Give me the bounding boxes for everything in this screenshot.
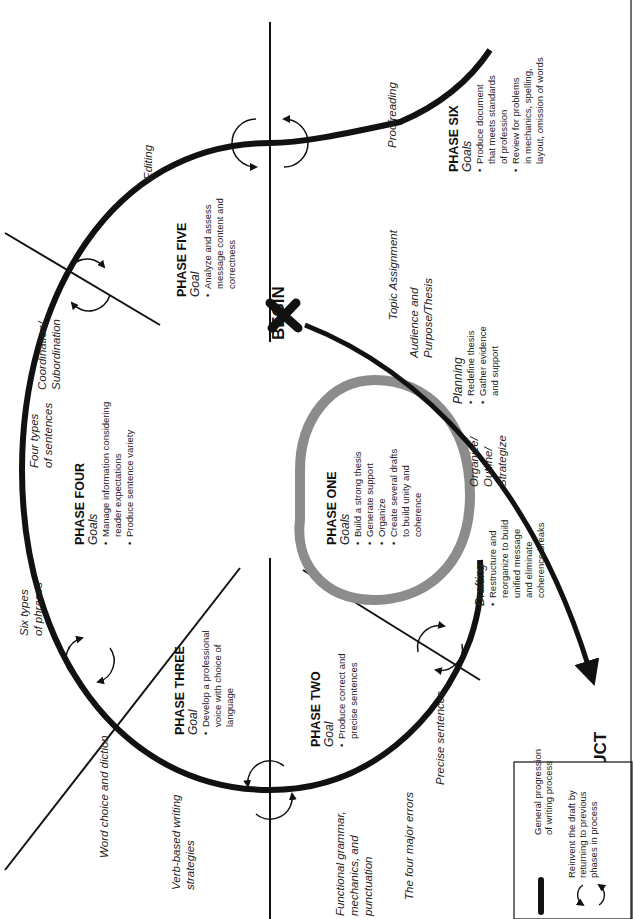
topic-assignment-label: Topic Assignment bbox=[387, 229, 399, 320]
svg-text:•: • bbox=[487, 603, 498, 606]
svg-text:and support: and support bbox=[489, 345, 500, 396]
proofreading-label: Proofreading bbox=[386, 82, 398, 148]
svg-text:PHASE FOUR: PHASE FOUR bbox=[73, 463, 87, 545]
svg-text:Redefine thesis: Redefine thesis bbox=[465, 330, 476, 396]
svg-text:reader expectations: reader expectations bbox=[112, 453, 123, 537]
svg-text:Gather evidence: Gather evidence bbox=[477, 326, 488, 396]
progression-arrow bbox=[305, 325, 588, 665]
svg-text:Produce document: Produce document bbox=[474, 84, 485, 164]
svg-text:message content and: message content and bbox=[214, 198, 225, 289]
phase-one-goal: Goals bbox=[338, 514, 352, 545]
svg-text:Organize: Organize bbox=[376, 498, 387, 537]
process-loop bbox=[22, 122, 470, 790]
svg-text:in mechanics, spelling,: in mechanics, spelling, bbox=[522, 68, 533, 164]
svg-text:Coordination/: Coordination/ bbox=[36, 320, 48, 390]
svg-text:Functional grammar,: Functional grammar, bbox=[334, 811, 346, 916]
svg-text:Goal: Goal bbox=[322, 721, 336, 747]
svg-text:coherence: coherence bbox=[412, 493, 423, 537]
svg-text:Six types: Six types bbox=[18, 589, 30, 636]
svg-text:Develop a professional: Develop a professional bbox=[200, 630, 211, 727]
svg-text:correctness: correctness bbox=[226, 240, 237, 289]
svg-text:•: • bbox=[465, 401, 476, 404]
four-types-label: Four types of sentences bbox=[28, 403, 54, 468]
svg-text:Planning: Planning bbox=[451, 357, 465, 404]
phase-six: PHASE SIX Goals •Produce document that m… bbox=[447, 57, 545, 172]
svg-text:of profession: of profession bbox=[498, 110, 509, 164]
svg-text:PHASE THREE: PHASE THREE bbox=[173, 646, 187, 735]
six-types-label: Six types of phrases bbox=[18, 582, 44, 636]
svg-text:Strategize: Strategize bbox=[496, 435, 508, 487]
svg-text:punctuation: punctuation bbox=[362, 857, 374, 917]
svg-text:of phrases: of phrases bbox=[32, 582, 44, 636]
four-major-errors-label: The four major errors bbox=[403, 792, 415, 900]
svg-text:Drafting: Drafting bbox=[473, 564, 487, 606]
svg-text:of sentences: of sentences bbox=[42, 403, 54, 468]
svg-text:Generate support: Generate support bbox=[364, 463, 375, 537]
svg-text:voice with choice of: voice with choice of bbox=[212, 644, 223, 727]
svg-text:•: • bbox=[352, 542, 363, 545]
svg-text:Create several drafts: Create several drafts bbox=[388, 449, 399, 537]
svg-text:•: • bbox=[474, 169, 485, 172]
svg-text:•: • bbox=[336, 744, 347, 747]
svg-text:Four types: Four types bbox=[28, 413, 40, 468]
svg-text:•: • bbox=[510, 169, 521, 172]
phase-one-title: PHASE ONE bbox=[325, 471, 339, 545]
svg-text:Subordination: Subordination bbox=[50, 319, 62, 390]
verb-based-label: Verb-based writing strategies bbox=[170, 794, 196, 890]
svg-text:mechanics, and: mechanics, and bbox=[348, 835, 360, 916]
functional-grammar-label: Functional grammar, mechanics, and punct… bbox=[334, 811, 374, 917]
begin-label: BEGIN bbox=[269, 286, 288, 340]
svg-text:phases in process: phases in process bbox=[588, 801, 599, 878]
svg-text:precise sentences: precise sentences bbox=[348, 662, 359, 739]
svg-text:to build unity and: to build unity and bbox=[400, 465, 411, 537]
svg-text:PHASE SIX: PHASE SIX bbox=[447, 105, 461, 172]
svg-text:layout, omission of words: layout, omission of words bbox=[534, 57, 545, 164]
svg-text:•: • bbox=[100, 542, 111, 545]
precise-sentences-label: Precise sentences bbox=[434, 691, 446, 785]
word-choice-label: Word choice and diction bbox=[98, 735, 110, 858]
phase-three: PHASE THREE Goal •Develop a professional… bbox=[173, 630, 235, 735]
phase-five: PHASE FIVE Goal •Analyze and assess mess… bbox=[175, 198, 237, 297]
svg-text:•: • bbox=[124, 542, 135, 545]
svg-text:Goals: Goals bbox=[460, 141, 474, 172]
svg-text:•: • bbox=[364, 542, 375, 545]
svg-text:Review for problems: Review for problems bbox=[510, 77, 521, 164]
svg-text:Produce sentence variety: Produce sentence variety bbox=[124, 430, 135, 537]
svg-text:•: • bbox=[477, 401, 488, 404]
phase-one: PHASE ONE Goals •Build a strong thesis •… bbox=[325, 449, 423, 545]
svg-text:and eliminate: and eliminate bbox=[523, 541, 534, 598]
phase-two: PHASE TWO Goal •Produce correct and prec… bbox=[309, 653, 359, 747]
svg-text:Goal: Goal bbox=[186, 709, 200, 735]
svg-text:General progression: General progression bbox=[532, 749, 543, 835]
svg-text:Produce correct and: Produce correct and bbox=[336, 653, 347, 739]
drafting-stage: Drafting •Restructure and reorganize to … bbox=[473, 520, 546, 606]
svg-text:of writing process: of writing process bbox=[543, 761, 554, 835]
svg-text:coherence breaks: coherence breaks bbox=[535, 522, 546, 598]
svg-text:Reinvent the draft by: Reinvent the draft by bbox=[566, 790, 577, 878]
svg-text:strategies: strategies bbox=[184, 840, 196, 890]
svg-text:Purpose/Thesis: Purpose/Thesis bbox=[422, 278, 434, 358]
svg-text:Build a strong thesis: Build a strong thesis bbox=[352, 451, 363, 537]
svg-text:Verb-based writing: Verb-based writing bbox=[170, 794, 182, 890]
svg-text:Organize/: Organize/ bbox=[468, 435, 480, 487]
svg-text:•: • bbox=[376, 542, 387, 545]
svg-text:•: • bbox=[202, 294, 213, 297]
svg-text:Goal: Goal bbox=[188, 271, 202, 297]
svg-text:Goals: Goals bbox=[86, 514, 100, 545]
editing-label: Editing bbox=[142, 144, 154, 180]
organize-label: Organize/ Outline/ Strategize bbox=[468, 435, 508, 487]
coordination-label: Coordination/ Subordination bbox=[36, 319, 62, 390]
legend: General progression of writing process R… bbox=[514, 749, 632, 919]
svg-text:Manage information considering: Manage information considering bbox=[100, 402, 111, 537]
svg-text:returning to previous: returning to previous bbox=[577, 791, 588, 878]
svg-text:PHASE FIVE: PHASE FIVE bbox=[175, 223, 189, 297]
writing-process-diagram: BEGIN FINISHED PRODUCT PHASE ONE Goals •… bbox=[0, 0, 634, 919]
svg-text:Audience and: Audience and bbox=[408, 287, 420, 359]
svg-text:that meets standards: that meets standards bbox=[486, 75, 497, 164]
svg-text:language: language bbox=[224, 688, 235, 727]
svg-text:reorganize to build: reorganize to build bbox=[499, 520, 510, 598]
svg-text:•: • bbox=[200, 732, 211, 735]
svg-text:•: • bbox=[388, 542, 399, 545]
svg-text:Analyze and assess: Analyze and assess bbox=[202, 204, 213, 289]
svg-text:Restructure and: Restructure and bbox=[487, 530, 498, 598]
